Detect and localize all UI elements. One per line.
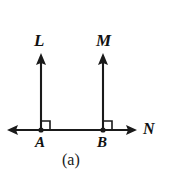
point-B-dot: [100, 127, 105, 132]
ray-label-L: L: [34, 32, 44, 49]
ray-label-M: M: [96, 32, 111, 49]
point-A-dot: [38, 127, 43, 132]
ray-M-group: [98, 53, 108, 130]
line-label-N: N: [143, 121, 155, 137]
geometry-figure: L M A B N (a): [0, 0, 181, 177]
geometry-diagram: [0, 0, 181, 177]
point-label-A: A: [35, 135, 45, 150]
line-N-group: [7, 125, 137, 135]
ray-L-group: [36, 53, 46, 130]
point-label-B: B: [97, 135, 107, 150]
figure-caption: (a): [62, 152, 80, 168]
